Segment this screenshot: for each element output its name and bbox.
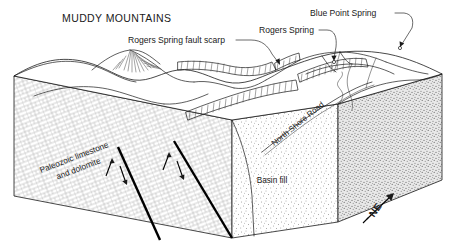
peak-hachures-west	[113, 51, 161, 72]
unit-face-basin-fill	[232, 104, 338, 238]
leader-rogers-spring-fault-scarp	[236, 40, 278, 62]
annotation-label-blue-point-spring: Blue Point Spring	[310, 8, 377, 18]
figure-title: MUDDY MOUNTAINS	[62, 12, 171, 24]
unit-label-basin-fill: Basin fill	[257, 176, 288, 185]
geologic-block-diagram: MUDDY MOUNTAINS Rogers Spring fault scar…	[0, 0, 452, 244]
leader-blue-point-spring	[395, 13, 413, 44]
annotation-label-rogers-spring: Rogers Spring	[259, 25, 314, 35]
annotation-label-rogers-spring-fault-scarp: Rogers Spring fault scarp	[128, 35, 225, 45]
